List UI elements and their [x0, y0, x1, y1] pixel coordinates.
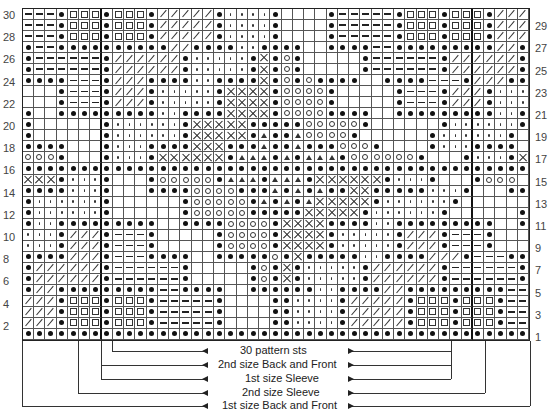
- filled-dot-cell: [293, 285, 304, 296]
- filled-dot-cell: [147, 108, 158, 119]
- filled-dot-cell: [180, 252, 191, 263]
- filled-dot-cell: [225, 252, 236, 263]
- cross-cell: [192, 141, 203, 152]
- blank-cell: [484, 197, 495, 208]
- dash-cell: [405, 64, 416, 75]
- small-dot-cell: [507, 86, 518, 97]
- blank-cell: [462, 208, 473, 219]
- small-dot-cell: [45, 208, 56, 219]
- small-dot-cell: [495, 97, 506, 108]
- small-dot-cell: [304, 263, 315, 274]
- slash-cell: [169, 42, 180, 53]
- open-circle-cell: [214, 208, 225, 219]
- filled-dot-cell: [417, 285, 428, 296]
- cross-cell: [203, 152, 214, 163]
- slash-cell: [450, 86, 461, 97]
- filled-dot-cell: [248, 163, 259, 174]
- filled-dot-cell: [270, 86, 281, 97]
- slash-cell: [360, 307, 371, 318]
- small-dot-cell: [68, 197, 79, 208]
- blank-cell: [383, 97, 394, 108]
- slash-cell: [484, 64, 495, 75]
- small-square-cell: [405, 9, 416, 20]
- filled-dot-cell: [270, 285, 281, 296]
- filled-dot-cell: [518, 75, 529, 86]
- open-circle-cell: [203, 186, 214, 197]
- filled-dot-cell: [214, 219, 225, 230]
- slash-cell: [372, 263, 383, 274]
- small-square-cell: [124, 318, 135, 329]
- small-square-cell: [462, 31, 473, 42]
- filled-dot-cell: [327, 86, 338, 97]
- filled-dot-cell: [462, 42, 473, 53]
- cross-cell: [225, 119, 236, 130]
- cross-cell: [34, 175, 45, 186]
- filled-dot-cell: [57, 186, 68, 197]
- filled-dot-cell: [439, 285, 450, 296]
- filled-dot-cell: [450, 318, 461, 329]
- filled-dot-cell: [270, 53, 281, 64]
- small-dot-cell: [248, 9, 259, 20]
- small-dot-cell: [372, 219, 383, 230]
- blank-cell: [383, 86, 394, 97]
- dash-cell: [180, 307, 191, 318]
- slash-cell: [158, 20, 169, 31]
- small-dot-cell: [259, 31, 270, 42]
- blank-cell: [169, 208, 180, 219]
- dash-cell: [113, 241, 124, 252]
- small-square-cell: [113, 31, 124, 42]
- dash-cell: [203, 307, 214, 318]
- blank-cell: [304, 53, 315, 64]
- dash-cell: [203, 296, 214, 307]
- cross-cell: [237, 119, 248, 130]
- filled-dot-cell: [372, 141, 383, 152]
- filled-dot-cell: [90, 329, 101, 340]
- filled-dot-cell: [507, 329, 518, 340]
- small-square-cell: [462, 20, 473, 31]
- slash-cell: [473, 86, 484, 97]
- blank-cell: [282, 20, 293, 31]
- guide-label-pattern-sts: 30 pattern sts: [240, 344, 307, 356]
- small-square-cell: [439, 307, 450, 318]
- blank-cell: [372, 119, 383, 130]
- small-dot-cell: [225, 53, 236, 64]
- slash-cell: [507, 53, 518, 64]
- blank-cell: [293, 31, 304, 42]
- slash-cell: [180, 20, 191, 31]
- filled-dot-cell: [259, 285, 270, 296]
- small-square-cell: [428, 296, 439, 307]
- blank-cell: [225, 296, 236, 307]
- filled-dot-cell: [473, 175, 484, 186]
- filled-dot-cell: [90, 163, 101, 174]
- open-circle-cell: [270, 252, 281, 263]
- small-square-cell: [473, 20, 484, 31]
- filled-dot-cell: [248, 274, 259, 285]
- open-circle-cell: [180, 175, 191, 186]
- blank-cell: [315, 20, 326, 31]
- slash-cell: [417, 230, 428, 241]
- blank-cell: [169, 230, 180, 241]
- dash-cell: [507, 296, 518, 307]
- filled-dot-cell: [102, 285, 113, 296]
- small-square-cell: [68, 296, 79, 307]
- triangle-cell: [270, 186, 281, 197]
- filled-dot-cell: [147, 20, 158, 31]
- filled-dot-cell: [248, 130, 259, 141]
- filled-dot-cell: [417, 186, 428, 197]
- filled-dot-cell: [68, 285, 79, 296]
- slash-cell: [507, 31, 518, 42]
- filled-dot-cell: [158, 186, 169, 197]
- cross-cell: [259, 108, 270, 119]
- blank-cell: [79, 152, 90, 163]
- filled-dot-cell: [450, 42, 461, 53]
- row-label: 11: [535, 220, 552, 232]
- slash-cell: [360, 318, 371, 329]
- small-dot-cell: [79, 208, 90, 219]
- filled-dot-cell: [57, 175, 68, 186]
- small-dot-cell: [372, 252, 383, 263]
- dash-cell: [417, 64, 428, 75]
- slash-cell: [79, 252, 90, 263]
- open-circle-cell: [304, 108, 315, 119]
- filled-dot-cell: [259, 175, 270, 186]
- filled-dot-cell: [394, 219, 405, 230]
